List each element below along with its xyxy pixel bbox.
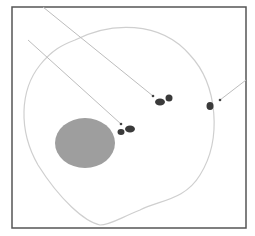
dots-group (118, 95, 214, 136)
arrow-to-upper-cluster (43, 7, 153, 96)
lower-cluster-left-dot (118, 129, 125, 135)
upper-cluster-right-dot (166, 95, 173, 102)
arrow-to-lower-cluster (28, 40, 121, 124)
upper-cluster-left-dot (155, 99, 165, 106)
arrow-tip-icon (152, 95, 155, 98)
lower-cluster-right-dot (125, 126, 135, 133)
arrow-to-right-dot (220, 80, 246, 100)
cell-diagram (0, 0, 255, 236)
arrow-tip-icon (120, 123, 123, 126)
arrow-tip-icon (219, 99, 222, 102)
nucleus (55, 118, 115, 168)
figure-frame (12, 7, 246, 228)
cell-outline (24, 27, 214, 225)
right-dot-dot (207, 102, 214, 110)
